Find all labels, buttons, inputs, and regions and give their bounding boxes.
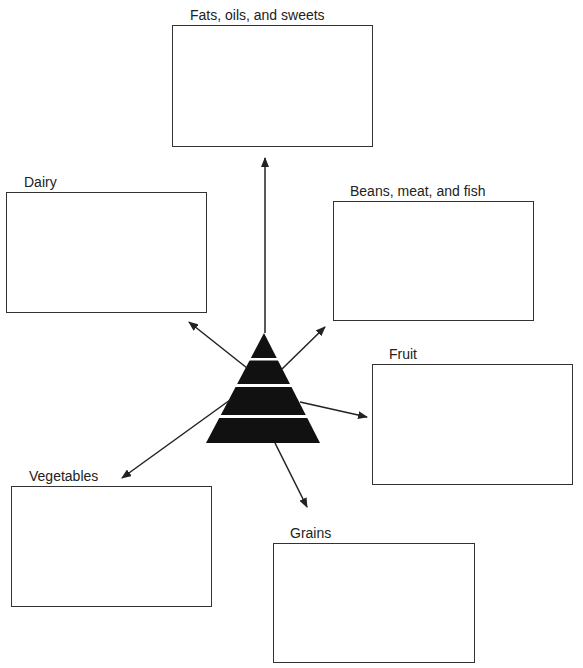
box-dairy[interactable] — [6, 192, 207, 313]
box-beans[interactable] — [333, 201, 534, 321]
box-grains[interactable] — [273, 543, 475, 663]
label-dairy: Dairy — [24, 174, 57, 190]
label-vegetables: Vegetables — [29, 468, 98, 484]
box-vegetables[interactable] — [11, 486, 212, 607]
label-grains: Grains — [290, 525, 331, 541]
box-fruit[interactable] — [372, 364, 573, 485]
label-beans: Beans, meat, and fish — [350, 183, 485, 199]
arrow-to-beans — [282, 327, 325, 369]
label-fats: Fats, oils, and sweets — [190, 7, 325, 23]
arrow-to-fruit — [300, 402, 367, 417]
food-pyramid-icon — [200, 333, 330, 443]
box-fats[interactable] — [172, 25, 373, 147]
label-fruit: Fruit — [389, 346, 417, 362]
arrow-to-dairy — [189, 322, 247, 368]
arrow-to-grains — [275, 443, 307, 507]
